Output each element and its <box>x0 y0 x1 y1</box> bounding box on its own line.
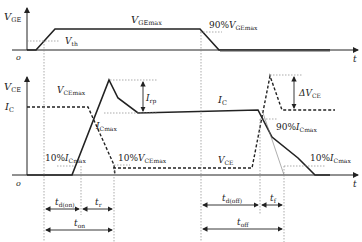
icmax-label: ICmax <box>95 121 117 132</box>
vge-axis-label: VGE <box>4 11 21 24</box>
top-panel: VGE o t Vth VGEmax 90%VGEmax <box>4 8 358 64</box>
bottom-panel: VCE IC o t Irp VCEmax ICmax IC <box>4 75 358 189</box>
t-axis-label-bottom: t <box>353 179 357 189</box>
origin-label-bottom: o <box>16 179 21 188</box>
dvce-label: ΔVCE <box>298 88 321 99</box>
t-axis-label-top: t <box>353 54 357 64</box>
pct10-vce-label: 10%VCEmax <box>118 153 167 164</box>
ic-fall-tangent <box>262 110 284 175</box>
vcemax-label: VCEmax <box>57 85 86 96</box>
vce-turn-on-fall <box>27 107 115 175</box>
vertical-guides <box>44 32 284 242</box>
origin-label-top: o <box>16 53 21 62</box>
t-on-label: ton <box>74 218 85 229</box>
timing-dimensions: td(on) tr ton td(off) tf toff <box>46 193 282 230</box>
pct90-ic-label: 90%ICmax <box>276 122 317 133</box>
vgemax-label: VGEmax <box>131 14 162 27</box>
pct90-vge-label: 90%VGEmax <box>209 20 258 31</box>
pct10-ic-right-label: 10%ICmax <box>310 153 351 164</box>
tr-label: tr <box>95 197 102 208</box>
irr-label: Irp <box>145 93 156 105</box>
ic-steady-label: IC <box>217 94 227 107</box>
ic-axis-label: IC <box>4 101 14 114</box>
td-off-label: td(off) <box>222 193 242 204</box>
td-on-label: td(on) <box>55 197 75 208</box>
vce-low-label: VCE <box>218 155 233 166</box>
vth-label: Vth <box>65 36 78 47</box>
t-off-label: toff <box>237 217 249 228</box>
tf-label: tf <box>270 193 277 204</box>
switching-waveform-diagram: VGE o t Vth VGEmax 90%VGEmax VCE IC o <box>0 0 362 242</box>
vce-axis-label: VCE <box>4 81 21 94</box>
